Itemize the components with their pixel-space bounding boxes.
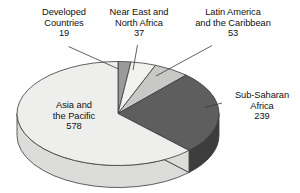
slice-label-near-east-north-africa-line2: North Africa	[100, 18, 178, 29]
slice-label-near-east-north-africa: Near East and North Africa 37	[100, 7, 178, 39]
slice-label-sub-saharan-africa: Sub-Saharan Africa 239	[226, 90, 298, 122]
slice-label-developed-countries: Developed Countries 19	[25, 7, 103, 39]
slice-label-latin-america-caribbean-line2: and the Caribbean	[180, 18, 286, 29]
slice-label-latin-america-caribbean-line1: Latin America	[180, 7, 286, 18]
slice-value-near-east-north-africa: 37	[100, 28, 178, 39]
slice-label-sub-saharan-africa-line2: Africa	[226, 101, 298, 112]
slice-value-sub-saharan-africa: 239	[226, 111, 298, 122]
slice-value-asia-pacific: 578	[38, 121, 110, 132]
slice-label-asia-pacific: Asia and the Pacific 578	[38, 100, 110, 132]
pie-chart: Developed Countries 19 Near East and Nor…	[0, 0, 300, 193]
slice-label-asia-pacific-line2: the Pacific	[38, 111, 110, 122]
slice-label-asia-pacific-line1: Asia and	[38, 100, 110, 111]
slice-label-near-east-north-africa-line1: Near East and	[100, 7, 178, 18]
slice-label-developed-countries-line1: Developed	[25, 7, 103, 18]
leader-line-latin-america-caribbean	[156, 46, 212, 77]
slice-value-latin-america-caribbean: 53	[180, 28, 286, 39]
slice-value-developed-countries: 19	[25, 28, 103, 39]
slice-label-developed-countries-line2: Countries	[25, 18, 103, 29]
slice-label-latin-america-caribbean: Latin America and the Caribbean 53	[180, 7, 286, 39]
slice-label-sub-saharan-africa-line1: Sub-Saharan	[226, 90, 298, 101]
